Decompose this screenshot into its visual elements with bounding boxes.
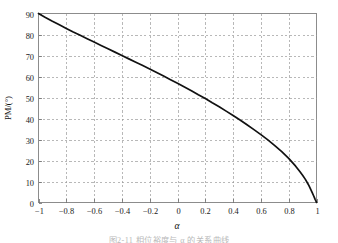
y-tick-label: 90 — [26, 11, 34, 20]
y-tick-label: 30 — [26, 137, 34, 146]
y-tick-label: 20 — [26, 158, 34, 167]
y-tick-label: 0 — [30, 200, 34, 209]
y-tick-label: 10 — [26, 179, 34, 188]
x-tick-label: 0.8 — [284, 207, 294, 216]
y-tick-label: 70 — [26, 53, 34, 62]
x-tick-label: 0 — [176, 207, 180, 216]
x-tick-label: −1 — [35, 207, 44, 216]
x-tick-label: −0.6 — [87, 207, 102, 216]
x-tick-label: −0.8 — [59, 207, 74, 216]
x-tick-label: 0.2 — [200, 207, 210, 216]
x-tick-label: 0.4 — [228, 207, 239, 216]
y-tick-labels: 0102030405060708090 — [26, 11, 34, 209]
figure-container: −1−0.8−0.6−0.4−0.200.20.40.60.81 0102030… — [0, 0, 338, 243]
x-tick-label: −0.2 — [143, 207, 158, 216]
phase-margin-chart: −1−0.8−0.6−0.4−0.200.20.40.60.81 0102030… — [0, 0, 338, 243]
y-tick-label: 60 — [26, 74, 34, 83]
x-tick-labels: −1−0.8−0.6−0.4−0.200.20.40.60.81 — [35, 207, 320, 216]
y-axis-label: PM/(°) — [3, 96, 13, 120]
y-tick-label: 80 — [26, 32, 34, 41]
x-tick-label: 0.6 — [256, 207, 266, 216]
y-tick-label: 50 — [26, 95, 34, 104]
plot-frame — [39, 14, 317, 203]
y-tick-label: 40 — [26, 116, 34, 125]
figure-caption: 图2-11 相位裕度与 α 的关系曲线 — [0, 235, 338, 243]
x-tick-label: 1 — [315, 207, 319, 216]
x-axis-label: α — [174, 220, 180, 231]
x-tick-label: −0.4 — [115, 207, 131, 216]
